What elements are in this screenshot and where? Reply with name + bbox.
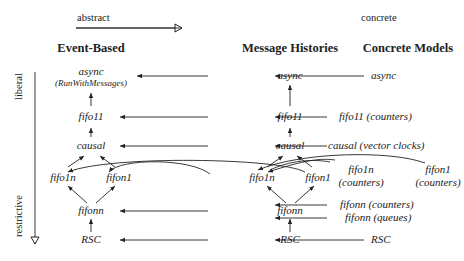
- node-concrete-fifo11-counters: fifo11 (counters): [339, 111, 412, 122]
- node-history-causal: causal: [276, 140, 305, 151]
- node-concrete-fifo1n-counters: (counters): [338, 177, 383, 188]
- node-concrete-async: async: [371, 70, 396, 81]
- node-event-fifo1n: fifo1n: [50, 172, 76, 183]
- node-event-rsc: RSC: [81, 234, 101, 245]
- node-concrete-fifon1-counters: (counters): [415, 177, 460, 188]
- node-event-async: async: [78, 66, 103, 77]
- node-concrete-fifonn-queues: fifonn (queues): [345, 212, 411, 223]
- axis-label-restrictive: restrictive: [14, 195, 25, 237]
- node-history-fifo11: fifo11: [278, 111, 303, 122]
- node-concrete-causal-vector-clocks: causal (vector clocks): [328, 140, 425, 151]
- node-event-causal: causal: [77, 140, 106, 151]
- node-event-fifo11: fifo11: [79, 111, 104, 122]
- column-header-message-histories: Message Histories: [242, 42, 338, 55]
- column-header-concrete-models: Concrete Models: [363, 42, 453, 55]
- node-event-fifonn: fifonn: [78, 205, 104, 216]
- node-concrete-fifon1: fifon1: [425, 164, 451, 175]
- node-history-fifonn: fifonn: [277, 205, 303, 216]
- axis-label-abstract: abstract: [77, 13, 110, 24]
- node-history-fifon1: fifon1: [305, 172, 331, 183]
- node-concrete-fifo1n: fifo1n: [348, 164, 374, 175]
- node-event-fifon1: fifon1: [106, 172, 132, 183]
- node-concrete-rsc: RSC: [371, 234, 391, 245]
- node-event-async-subtitle: (RunWithMessages): [55, 79, 127, 88]
- node-history-fifo1n: fifo1n: [249, 172, 275, 183]
- node-history-rsc: RSC: [280, 234, 300, 245]
- node-concrete-fifonn-counters: fifonn (counters): [340, 199, 414, 210]
- axis-label-concrete: concrete: [361, 13, 397, 24]
- node-history-async: async: [277, 70, 302, 81]
- axis-label-liberal: liberal: [14, 73, 25, 100]
- column-header-event-based: Event-Based: [57, 42, 124, 55]
